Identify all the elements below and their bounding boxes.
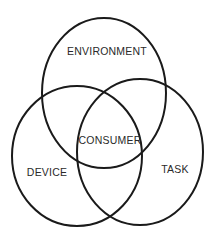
task-circle [77,79,203,225]
device-label: DEVICE [27,166,67,178]
venn-diagram: ENVIRONMENT CONSUMER DEVICE TASK [0,0,217,235]
consumer-label: CONSUMER [79,134,142,146]
environment-label: ENVIRONMENT [67,45,147,57]
task-label: TASK [161,163,188,175]
